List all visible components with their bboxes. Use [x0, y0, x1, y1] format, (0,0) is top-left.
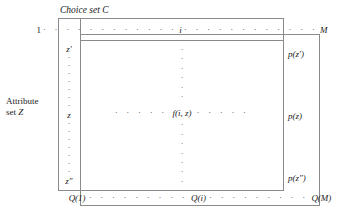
- attribute-set-caption-line1: Attribute: [6, 96, 56, 107]
- choice-set-title: Choice set C: [60, 4, 109, 16]
- attribute-set-symbol: Z: [18, 107, 23, 117]
- choice-index-last: M: [318, 25, 330, 35]
- q-label-middle: Q(i): [188, 193, 209, 203]
- matrix-dots-left: · · · · ·: [115, 107, 168, 117]
- matrix-dots-right: · · · · ·: [197, 107, 250, 117]
- choice-index-dots-right: · · · · · · · · · · · ·: [184, 24, 318, 34]
- probability-label-middle: p(z): [288, 111, 302, 121]
- choice-set-attribute-matrix-diagram: Choice set C Attribute set Z 1 · · · · ·…: [0, 0, 345, 222]
- matrix-center-row: · · · · · f(i, z) · · · · ·: [81, 105, 283, 121]
- attribute-dots-upper: ·······: [58, 54, 80, 110]
- attribute-set-caption: Attribute set Z: [6, 96, 56, 118]
- choice-probability-row: Q(1) · · · · · · · · · Q(i) · · · · · · …: [81, 190, 319, 205]
- choice-index-dots-left: · · · · · · · · · · · ·: [43, 24, 177, 34]
- q-dots-left: · · · · · · · · ·: [89, 192, 188, 202]
- attribute-set-caption-line2: set Z: [6, 107, 56, 118]
- choice-index-row: 1 · · · · · · · · · · · · i · · · · · · …: [81, 20, 283, 39]
- q-label-last: Q(M): [308, 193, 334, 203]
- q-label-first: Q(1): [66, 193, 89, 203]
- attribute-dots-lower: ·······: [58, 120, 80, 176]
- matrix-interior: ····· ····· ····· · · · · · f(i, z) · · …: [81, 41, 283, 190]
- probability-label-last: p(z″): [288, 173, 306, 183]
- probability-label-first: p(z′): [288, 49, 304, 59]
- attribute-label-column: z′ ······· z ······· z″: [58, 40, 80, 190]
- choice-index-first: 1: [34, 25, 43, 35]
- q-dots-right: · · · · · · · · ·: [209, 192, 308, 202]
- probability-column: p(z′) p(z) p(z″): [284, 41, 320, 191]
- attribute-label-last: z″: [65, 176, 72, 186]
- matrix-center-entry: f(i, z): [168, 108, 197, 118]
